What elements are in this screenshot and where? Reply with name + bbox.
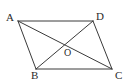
vertex-label-B: B: [31, 70, 38, 81]
intersection-label-O: O: [64, 48, 71, 58]
diagonal-DB: [36, 21, 93, 69]
edge-group: [18, 21, 112, 69]
edge-DC: [93, 21, 112, 69]
vertex-label-A: A: [6, 12, 14, 23]
vertex-label-C: C: [115, 70, 122, 81]
parallelogram-diagram: [0, 0, 129, 84]
geometry-figure: A D B C O: [0, 0, 129, 84]
vertex-label-D: D: [96, 11, 104, 22]
edge-BA: [18, 21, 36, 69]
